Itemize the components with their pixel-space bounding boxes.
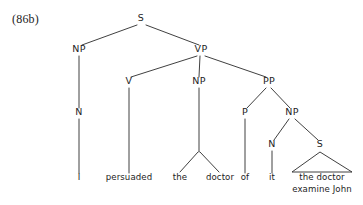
tree-terminal-word-doctor: doctor — [206, 172, 235, 182]
tree-terminal-word-i: I — [78, 172, 81, 182]
tree-nodes-group: SNPVPNVNPPPPNPNS — [72, 12, 323, 149]
tree-edge — [82, 25, 137, 45]
tree-terminal-line: examine John — [292, 184, 352, 194]
tree-terminal-line: the doctor — [299, 172, 345, 182]
tree-edge — [295, 119, 318, 140]
tree-node-s-root: S — [138, 12, 144, 23]
tree-node-n-it: N — [268, 138, 275, 149]
tree-terminal-word-it: it — [269, 172, 275, 182]
tree-node-p: P — [242, 106, 248, 117]
tree-triangle-abbreviation — [292, 152, 352, 172]
tree-node-pp: PP — [263, 75, 275, 86]
tree-node-vp: VP — [195, 43, 208, 54]
example-number-label: (86b) — [12, 12, 39, 27]
tree-terminal-word-persuaded: persuaded — [106, 172, 153, 182]
tree-node-s-embedded: S — [317, 138, 323, 149]
tree-edge — [205, 56, 266, 77]
tree-node-np-object: NP — [192, 75, 205, 86]
tree-node-v: V — [126, 75, 133, 86]
tree-terminal-word-the: the — [173, 172, 187, 182]
tree-terminal-clause-the-doctor-examine-john: the doctorexamine John — [292, 172, 352, 194]
tree-edge — [200, 152, 219, 172]
tree-edge — [146, 25, 199, 45]
tree-edge — [180, 152, 198, 172]
tree-edge — [131, 56, 197, 77]
tree-edge — [247, 88, 266, 108]
tree-node-np-subject: NP — [72, 43, 85, 54]
syntax-tree-figure: (86b) SNPVPNVNPPPPNPNS Ipersuadedthedoct… — [0, 0, 363, 205]
tree-terminal-word-of: of — [241, 172, 250, 182]
tree-edge — [199, 56, 200, 77]
tree-node-n-subject: N — [75, 106, 82, 117]
tree-edge — [274, 119, 289, 140]
tree-terminals-group: Ipersuadedthedoctorofitthe doctorexamine… — [78, 172, 352, 194]
phrase-structure-tree: SNPVPNVNPPPPNPNS Ipersuadedthedoctorofit… — [0, 0, 363, 205]
tree-triangle-group — [292, 152, 352, 172]
tree-edge — [271, 88, 290, 108]
tree-node-np-embedded: NP — [285, 106, 298, 117]
